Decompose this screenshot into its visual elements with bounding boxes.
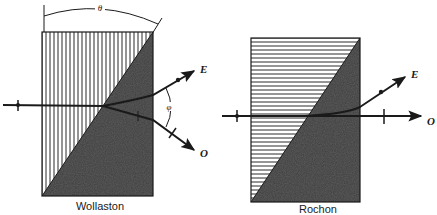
wollaston-prism: θ E O φ Wollaston bbox=[3, 3, 208, 212]
rochon-incident-dot bbox=[235, 114, 239, 118]
wollaston-o-label: O bbox=[200, 147, 208, 159]
wollaston-e-dot bbox=[176, 78, 180, 82]
phi-label: φ bbox=[167, 102, 172, 112]
wollaston-caption: Wollaston bbox=[76, 200, 124, 212]
rochon-caption: Rochon bbox=[299, 203, 337, 215]
rochon-prism: O E Rochon bbox=[222, 38, 435, 215]
rochon-e-label: E bbox=[410, 68, 418, 80]
theta-label: θ bbox=[98, 3, 103, 13]
wollaston-e-label: E bbox=[199, 63, 207, 75]
wollaston-incident-dot bbox=[16, 103, 20, 107]
theta-extension-right bbox=[152, 18, 162, 34]
rochon-o-label: O bbox=[427, 115, 435, 127]
rochon-e-dot bbox=[379, 90, 383, 94]
prism-diagram: θ E O φ Wollaston O E Ro bbox=[0, 0, 437, 215]
